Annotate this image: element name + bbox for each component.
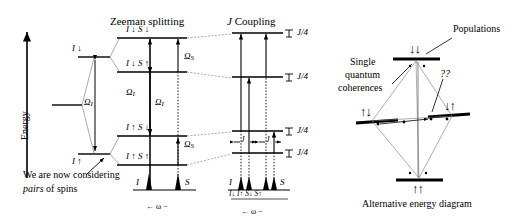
single-quantum-line-2: quantum [345, 70, 380, 80]
single-spin-levels [78, 57, 110, 154]
populations-label: Populations [453, 24, 500, 34]
zeeman-omega-axis-label: ← ω − [146, 203, 168, 211]
annotation-line-1: We are now considering [23, 170, 120, 180]
omega-S-bottom-label: ΩS [184, 140, 194, 150]
zeeman-level-label-dd: I ↓ S ↓ [126, 25, 149, 34]
state-label-top: ↓↓ [409, 42, 420, 55]
unknown-label: ?? [440, 69, 450, 79]
zeeman-level-label-uu: I ↑ S ↑ [126, 152, 149, 161]
jcoupling-peak-label-I: I [229, 178, 232, 187]
zeeman-peak-label-I: I [136, 178, 139, 187]
j-gap-label-right: J [266, 136, 270, 144]
annotation-of-spins: of spins [44, 183, 78, 194]
single-quantum-line-1: Single [350, 57, 376, 67]
omega-I-mid-label: ΩI [155, 98, 164, 108]
level-label-I-down: I ↓ [72, 44, 82, 53]
nmr-energy-level-figure: Zeeman splitting J Coupling Alternative … [0, 0, 529, 224]
single-quantum-line-3: coherences [338, 83, 382, 93]
j4-label-3: J/4 [297, 126, 308, 135]
caption-jcoupling: J Coupling [227, 16, 276, 27]
jcoupling-transition-arrows [241, 34, 274, 185]
jcoupling-levels [187, 33, 283, 165]
j4-label-4: J/4 [297, 148, 308, 157]
jcoupling-omega-axis-label: ← ω − [241, 208, 263, 216]
j4-label-2: J/4 [297, 72, 308, 81]
state-label-bottom: ↑↑ [412, 182, 423, 195]
annotation-pairs-italic: pairs [23, 183, 44, 194]
jcoupling-peak-sublabels: I↓ I↑ S↓ S↑ [229, 190, 262, 198]
state-label-right: ↓↑ [444, 99, 455, 112]
energy-axis-label: Energy [20, 111, 30, 140]
jcoupling-peak-label-S: S [280, 178, 285, 187]
zeeman-transition-arrows [150, 39, 178, 185]
zeeman-level-label-du: I ↓ S ↑ [126, 59, 149, 68]
j4-label-1: J/4 [297, 28, 308, 37]
state-label-left: ↑↓ [360, 105, 371, 118]
omega-I-single-label: ΩI [84, 98, 93, 108]
j-gap-label-left: J [241, 136, 245, 144]
annotation-line-2: pairs of spins [23, 184, 77, 194]
j4-shift-brackets [285, 30, 293, 157]
level-label-I-up: I ↑ [72, 157, 82, 166]
omega-S-top-label: ΩS [184, 52, 194, 62]
omega-I-left-label: ΩI [126, 88, 135, 98]
zeeman-peak-label-S: S [185, 178, 190, 187]
zeeman-level-label-ud: I ↑ S ↓ [126, 123, 149, 132]
caption-alternative: Alternative energy diagram [362, 199, 472, 209]
